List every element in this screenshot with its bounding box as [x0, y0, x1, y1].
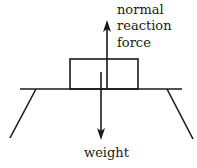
force-diagram: normal reaction force weight: [0, 0, 197, 168]
block: [70, 59, 138, 89]
normal-label-line3: force: [117, 35, 151, 50]
weight-arrow: [97, 72, 105, 140]
normal-reaction-arrow: [103, 20, 111, 89]
diagram-svg: normal reaction force weight: [0, 0, 197, 168]
table-left-leg: [10, 89, 36, 138]
table-right-leg: [167, 89, 193, 139]
normal-label-line1: normal: [117, 2, 164, 17]
weight-label: weight: [84, 145, 130, 160]
normal-label-line2: reaction: [117, 18, 172, 33]
